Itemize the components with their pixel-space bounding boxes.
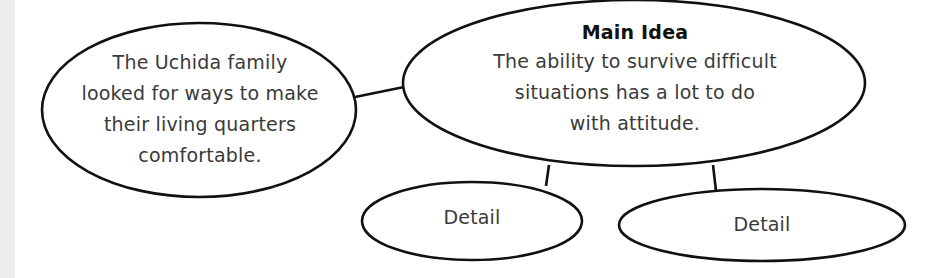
detail-1-label: Detail <box>372 202 572 233</box>
left-node-line-2: looked for ways to make <box>44 78 356 109</box>
left-node-text: The Uchida family looked for ways to mak… <box>44 47 356 171</box>
left-node-line-1: The Uchida family <box>44 47 356 78</box>
main-idea-line-2: situations has a lot to do <box>420 77 850 108</box>
connector-left-main <box>355 87 404 97</box>
detail-2-label: Detail <box>662 209 862 240</box>
connector-main-detail-2 <box>713 165 716 191</box>
main-idea-title: Main Idea <box>420 18 850 46</box>
left-node-line-3: their living quarters <box>44 109 356 140</box>
main-idea-line-1: The ability to survive difficult <box>420 46 850 77</box>
connector-main-detail-1 <box>546 165 549 186</box>
main-idea-text: Main Idea The ability to survive difficu… <box>420 18 850 139</box>
main-idea-line-3: with attitude. <box>420 108 850 139</box>
left-node-line-4: comfortable. <box>44 140 356 171</box>
